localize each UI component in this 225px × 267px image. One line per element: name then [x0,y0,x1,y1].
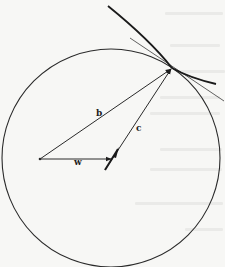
origin-point [39,158,42,161]
circle [2,49,220,267]
diagram-canvas: b c w [0,0,225,267]
label-c: c [136,123,142,133]
vector-c-direction-arrow [113,147,119,158]
vector-b [40,69,171,159]
label-b: b [96,108,102,118]
curve [108,6,216,84]
vector-diagram-figure: b c w [0,0,225,267]
tangent-line [130,38,224,101]
label-w: w [73,157,82,167]
